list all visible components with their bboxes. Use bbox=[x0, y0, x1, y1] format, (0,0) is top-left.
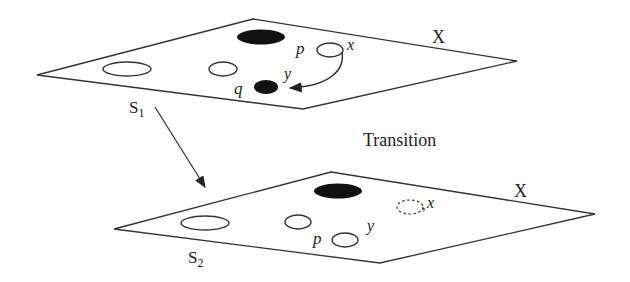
state-label-s1: S1 bbox=[129, 98, 144, 120]
open-region-mid bbox=[209, 62, 237, 76]
state-label-s2: S2 bbox=[188, 248, 203, 270]
label-p-top: p bbox=[295, 39, 305, 58]
label-x-bottom: x bbox=[426, 194, 434, 211]
label-p-bottom: p bbox=[312, 229, 322, 248]
point-p-region-bottom bbox=[285, 215, 311, 229]
comma-bottom: , bbox=[422, 198, 426, 213]
open-region-left-bottom bbox=[181, 216, 229, 230]
transition-arrow bbox=[155, 107, 205, 187]
label-y-top: y bbox=[282, 65, 292, 83]
label-y-bottom: y bbox=[365, 217, 375, 235]
point-y-region-bottom bbox=[332, 233, 358, 247]
point-x-region bbox=[317, 43, 343, 57]
label-q-top: q bbox=[234, 79, 243, 98]
state-transition-diagram: X p x y q S1 Transition X p y , x S2 bbox=[0, 0, 630, 282]
space-label-x-top: X bbox=[432, 27, 445, 47]
top-plane: X p x y q S1 bbox=[37, 19, 517, 120]
open-region-left bbox=[103, 62, 151, 76]
vanished-x-region bbox=[397, 200, 423, 214]
label-x-top: x bbox=[346, 36, 354, 53]
filled-region-top bbox=[237, 30, 285, 45]
bottom-plane: X p y , x S2 bbox=[114, 172, 595, 270]
transition-label: Transition bbox=[363, 130, 436, 150]
filled-region-bottom bbox=[314, 184, 362, 199]
point-q-region bbox=[254, 80, 278, 94]
space-label-x-bottom: X bbox=[514, 181, 527, 201]
